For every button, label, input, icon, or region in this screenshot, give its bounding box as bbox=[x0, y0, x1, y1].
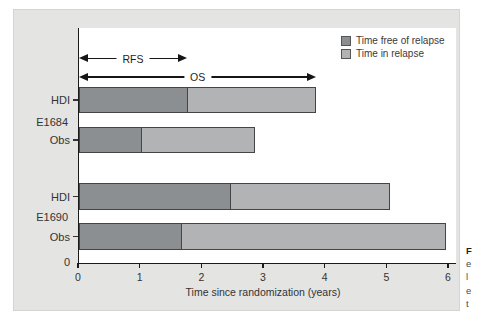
y-axis-origin-label: 0 bbox=[0, 256, 70, 268]
caption-fragment: Felet bbox=[466, 244, 482, 310]
y-tick-icon bbox=[73, 196, 78, 198]
row-label-text: Obs bbox=[50, 132, 70, 148]
y-axis-row-label: Obs bbox=[0, 132, 78, 148]
figure-page: { "figure": { "group_labels": ["E1684", … bbox=[0, 0, 482, 326]
bar-segment-time-free-of-relapse bbox=[80, 184, 231, 209]
x-tick-label: 2 bbox=[186, 271, 216, 283]
x-tick-label: 1 bbox=[125, 271, 155, 283]
arrowhead-left-icon bbox=[79, 54, 88, 62]
row-label-text: HDI bbox=[51, 189, 70, 205]
group-label: E1690 bbox=[0, 211, 68, 223]
arrowhead-right-icon bbox=[178, 54, 187, 62]
legend-item: Time in relapse bbox=[341, 48, 445, 59]
y-axis-row-label: HDI bbox=[0, 189, 78, 205]
bar-segment-time-in-relapse bbox=[142, 128, 254, 152]
x-tick-icon bbox=[324, 263, 326, 268]
bar-row bbox=[79, 127, 255, 153]
legend-swatch-icon bbox=[341, 36, 351, 46]
bar-segment-time-in-relapse bbox=[231, 184, 389, 209]
y-tick-icon bbox=[73, 236, 78, 238]
x-tick-icon bbox=[386, 263, 388, 268]
bar-segment-time-in-relapse bbox=[182, 224, 445, 249]
bar-row bbox=[79, 223, 446, 250]
caption-line: l bbox=[466, 270, 482, 283]
span-arrow-os: OS bbox=[79, 71, 316, 83]
group-label: E1684 bbox=[0, 116, 68, 128]
y-tick-icon bbox=[73, 99, 78, 101]
x-axis-title: Time since randomization (years) bbox=[78, 286, 448, 298]
x-tick-label: 5 bbox=[371, 271, 401, 283]
caption-line: t bbox=[466, 297, 482, 310]
plot-area: RFSOS bbox=[78, 28, 456, 264]
row-label-text: HDI bbox=[51, 92, 70, 108]
bar-segment-time-free-of-relapse bbox=[80, 224, 182, 249]
x-tick-icon bbox=[77, 263, 79, 268]
bar-segment-time-in-relapse bbox=[188, 88, 316, 112]
x-tick-label: 6 bbox=[433, 271, 463, 283]
arrow-label: RFS bbox=[116, 52, 149, 64]
legend-item-label: Time in relapse bbox=[356, 48, 424, 59]
caption-line: e bbox=[466, 257, 482, 270]
arrowhead-right-icon bbox=[307, 73, 316, 81]
caption-line: F bbox=[466, 244, 482, 257]
arrowhead-left-icon bbox=[79, 73, 88, 81]
x-tick-icon bbox=[262, 263, 264, 268]
x-tick-icon bbox=[447, 263, 449, 268]
arrow-label: OS bbox=[184, 71, 211, 83]
bar-segment-time-free-of-relapse bbox=[80, 88, 188, 112]
x-tick-label: 3 bbox=[248, 271, 278, 283]
y-axis-row-label: Obs bbox=[0, 229, 78, 245]
legend-item: Time free of relapse bbox=[341, 35, 445, 46]
y-tick-icon bbox=[73, 139, 78, 141]
bar-row bbox=[79, 183, 390, 210]
row-label-text: Obs bbox=[50, 229, 70, 245]
bar-segment-time-free-of-relapse bbox=[80, 128, 142, 152]
x-tick-icon bbox=[201, 263, 203, 268]
chart-panel: RFSOS Time free of relapseTime in relaps… bbox=[14, 10, 459, 310]
x-tick-icon bbox=[139, 263, 141, 268]
legend: Time free of relapseTime in relapse bbox=[341, 35, 445, 59]
legend-swatch-icon bbox=[341, 49, 351, 59]
legend-item-label: Time free of relapse bbox=[356, 35, 445, 46]
span-arrow-rfs: RFS bbox=[79, 53, 187, 65]
caption-line: e bbox=[466, 284, 482, 297]
x-tick-label: 0 bbox=[63, 271, 93, 283]
x-tick-label: 4 bbox=[310, 271, 340, 283]
y-axis-row-label: HDI bbox=[0, 92, 78, 108]
bar-row bbox=[79, 87, 316, 113]
